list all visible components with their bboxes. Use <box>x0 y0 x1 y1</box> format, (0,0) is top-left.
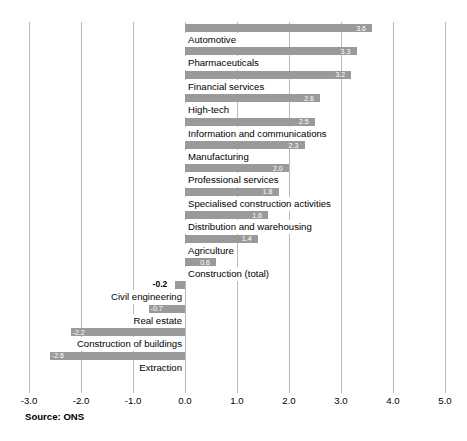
bar <box>185 94 320 102</box>
bar <box>185 141 305 149</box>
bar <box>71 328 185 336</box>
bar-value-label: -2.2 <box>73 328 85 337</box>
x-tick-label: 1.0 <box>217 395 257 406</box>
category-label: Professional services <box>185 173 282 187</box>
category-label: Construction of buildings <box>74 337 185 351</box>
bar-value-label: 1.4 <box>242 234 252 243</box>
bar-value-label: 2.5 <box>299 117 309 126</box>
bar-value-label: -0.7 <box>151 304 163 313</box>
category-label: Financial services <box>185 80 267 94</box>
bar-row: 2.3Manufacturing <box>0 141 467 164</box>
bar-row: 3.3Pharmaceuticals <box>0 47 467 70</box>
bar-value-label: 0.6 <box>200 258 210 267</box>
bar-row: 2.6High-tech <box>0 94 467 117</box>
bar-row: 0.6Construction (total) <box>0 258 467 281</box>
bar-row: -0.2Civil engineering <box>0 281 467 304</box>
bar-value-label: 2.3 <box>289 141 299 150</box>
category-label: Civil engineering <box>108 290 185 304</box>
category-label: Pharmaceuticals <box>185 56 262 70</box>
bar-row: 1.8Specialised construction activities <box>0 188 467 211</box>
category-label: Distribution and warehousing <box>185 220 315 234</box>
x-tick-label: 2.0 <box>269 395 309 406</box>
bar-chart: 3.6Automotive3.3Pharmaceuticals3.2Financ… <box>0 0 467 441</box>
category-label: Agriculture <box>185 244 237 258</box>
bar <box>50 352 185 360</box>
bar-row: 2.5Information and communications <box>0 118 467 141</box>
category-label: Real estate <box>130 314 185 328</box>
category-label: Specialised construction activities <box>185 197 334 211</box>
bar <box>185 24 372 32</box>
source-note: Source: ONS <box>25 411 84 422</box>
x-tick-label: 0.0 <box>165 395 205 406</box>
bar-value-label: 1.8 <box>263 187 273 196</box>
bar <box>185 118 315 126</box>
x-tick-label: 3.0 <box>321 395 361 406</box>
x-tick-label: -3.0 <box>9 395 49 406</box>
bar-value-label: -2.6 <box>52 351 64 360</box>
category-label: Information and communications <box>185 127 330 141</box>
bar-row: -0.7Real estate <box>0 305 467 328</box>
category-label: Extraction <box>136 361 185 375</box>
x-tick-label: 5.0 <box>425 395 465 406</box>
bar-row: 2.0Professional services <box>0 164 467 187</box>
bar-value-label: 3.3 <box>341 47 351 56</box>
category-label: Manufacturing <box>185 150 252 164</box>
bar-row: -2.6Extraction <box>0 352 467 375</box>
category-label: Construction (total) <box>185 267 272 281</box>
x-axis: -3.0-2.0-1.00.01.02.03.04.05.0 <box>0 393 467 413</box>
category-label: High-tech <box>185 103 232 117</box>
bar-row: 3.6Automotive <box>0 24 467 47</box>
bar-row: 1.4Agriculture <box>0 235 467 258</box>
bar-value-label: 3.2 <box>335 70 345 79</box>
x-tick-label: 4.0 <box>373 395 413 406</box>
bar <box>185 71 351 79</box>
bar-row: -2.2Construction of buildings <box>0 328 467 351</box>
bar-value-label: 1.6 <box>252 211 262 220</box>
x-tick-label: -2.0 <box>61 395 101 406</box>
bar <box>185 47 357 55</box>
bar-value-label: 2.0 <box>273 164 283 173</box>
bar-row: 3.2Financial services <box>0 71 467 94</box>
category-label: Automotive <box>185 33 239 47</box>
bar-value-label: 3.6 <box>356 24 366 33</box>
plot-area: 3.6Automotive3.3Pharmaceuticals3.2Financ… <box>0 0 467 393</box>
x-tick-label: -1.0 <box>113 395 153 406</box>
bar <box>175 281 185 289</box>
bar-value-label: -0.2 <box>153 280 168 289</box>
bar-row: 1.6Distribution and warehousing <box>0 211 467 234</box>
bar-value-label: 2.6 <box>304 94 314 103</box>
